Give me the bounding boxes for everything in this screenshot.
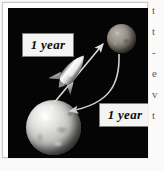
page-body-text-sliver: t t - e v t	[152, 0, 164, 171]
earth-surface-texture	[26, 100, 81, 155]
page-text-line: t	[152, 0, 164, 21]
earth-planet	[26, 100, 81, 155]
page-text-line: e	[152, 63, 164, 84]
page-text-line: -	[152, 42, 164, 63]
page-text-line: v	[152, 84, 164, 105]
destination-planet-surface-texture	[107, 24, 136, 53]
figure-frame: 1 year 1 year	[2, 2, 148, 158]
destination-planet	[107, 24, 136, 53]
figure-page: 1 year 1 year t t - e v t	[0, 0, 164, 171]
page-text-line: t	[152, 105, 164, 126]
space-scene-panel: 1 year 1 year	[8, 8, 148, 158]
page-text-line: t	[152, 21, 164, 42]
return-duration-label: 1 year	[99, 103, 148, 127]
outbound-duration-label: 1 year	[22, 33, 74, 57]
